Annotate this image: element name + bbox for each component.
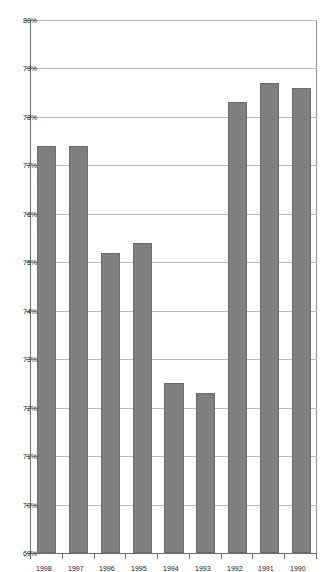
- percent-label-80: 80%: [23, 17, 37, 24]
- bar-1994: [164, 383, 183, 553]
- bar-1990: [292, 88, 311, 553]
- gridline-79: [31, 68, 317, 69]
- bar-1992: [228, 102, 247, 553]
- percent-label-71: 71%: [23, 453, 37, 460]
- plot-area: [31, 20, 317, 553]
- year-tick: [189, 554, 190, 559]
- percent-label-77: 77%: [23, 162, 37, 169]
- percent-label-70: 70%: [23, 502, 37, 509]
- year-label-1996: 1996: [99, 565, 115, 572]
- year-label-1992: 1992: [227, 565, 243, 572]
- year-tick: [125, 554, 126, 559]
- year-tick: [62, 554, 63, 559]
- bar-1993: [196, 393, 215, 553]
- bar-1998: [37, 146, 56, 553]
- gridline-80: [31, 20, 317, 21]
- bar-1995: [133, 243, 152, 553]
- percent-label-74: 74%: [23, 308, 37, 315]
- year-tick: [94, 554, 95, 559]
- year-label-1994: 1994: [163, 565, 179, 572]
- year-tick: [221, 554, 222, 559]
- year-tick: [316, 554, 317, 559]
- year-label-1991: 1991: [258, 565, 274, 572]
- year-tick: [252, 554, 253, 559]
- percent-label-69: 69%: [23, 550, 37, 557]
- percent-label-73: 73%: [23, 356, 37, 363]
- year-label-1995: 1995: [131, 565, 147, 572]
- percent-label-79: 79%: [23, 65, 37, 72]
- year-label-1998: 1998: [36, 565, 52, 572]
- percent-label-72: 72%: [23, 405, 37, 412]
- bar-1997: [69, 146, 88, 553]
- year-tick: [157, 554, 158, 559]
- plot-top-border: [316, 20, 317, 553]
- year-label-1990: 1990: [290, 565, 306, 572]
- bar-1991: [260, 83, 279, 553]
- year-axis-line: [31, 553, 317, 554]
- year-label-1997: 1997: [68, 565, 84, 572]
- percent-label-76: 76%: [23, 211, 37, 218]
- percent-axis-line: [30, 20, 31, 553]
- percent-label-75: 75%: [23, 259, 37, 266]
- year-label-1993: 1993: [195, 565, 211, 572]
- percent-label-78: 78%: [23, 114, 37, 121]
- bar-1996: [101, 253, 120, 553]
- year-tick: [284, 554, 285, 559]
